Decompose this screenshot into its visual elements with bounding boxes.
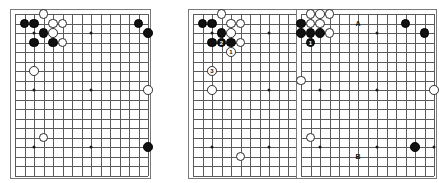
star-point — [376, 89, 379, 92]
stone-black[interactable] — [401, 19, 411, 29]
stone-black[interactable] — [198, 19, 208, 29]
grid-line-vertical — [377, 14, 378, 176]
grid-line-vertical — [250, 14, 251, 176]
stone-white[interactable] — [429, 85, 439, 95]
star-point — [33, 89, 36, 92]
star-point — [433, 146, 436, 149]
stone-white[interactable] — [29, 66, 39, 76]
star-point — [319, 89, 322, 92]
star-point — [268, 146, 271, 149]
grid-line-vertical — [72, 14, 73, 176]
grid-line-vertical — [301, 14, 302, 176]
grid-line-vertical — [279, 14, 280, 176]
grid-line-vertical — [396, 14, 397, 176]
stone-black[interactable] — [207, 19, 217, 29]
stone-white[interactable] — [39, 133, 49, 143]
grid-line-vertical — [339, 14, 340, 176]
stone-white[interactable] — [48, 19, 58, 29]
grid-line-vertical — [91, 14, 92, 176]
star-point — [90, 32, 93, 35]
stone-black[interactable] — [306, 28, 316, 38]
grid-line-vertical — [358, 14, 359, 176]
grid-line-vertical — [110, 14, 111, 176]
stone-black[interactable] — [315, 28, 325, 38]
star-point — [211, 146, 214, 149]
grid-line-vertical — [120, 14, 121, 176]
star-point — [319, 146, 322, 149]
stone-white[interactable] — [306, 133, 316, 143]
go-board-1[interactable] — [10, 9, 151, 179]
go-board-3[interactable]: AB1 — [296, 9, 437, 179]
stone-black[interactable] — [29, 19, 39, 29]
grid-line-vertical — [269, 14, 270, 176]
stone-white[interactable] — [226, 19, 236, 29]
stone-white[interactable] — [325, 28, 335, 38]
grid-line-vertical — [425, 14, 426, 176]
stone-white[interactable] — [306, 9, 316, 19]
star-point — [90, 146, 93, 149]
grid-line-horizontal — [301, 176, 434, 177]
stone-black[interactable] — [296, 28, 306, 38]
stone-white[interactable] — [315, 19, 325, 29]
stone-white[interactable] — [143, 85, 153, 95]
grid-line-vertical — [349, 14, 350, 176]
stone-black[interactable] — [134, 19, 144, 29]
point-label-a: A — [352, 20, 364, 27]
stone-white[interactable] — [226, 28, 236, 38]
star-point — [33, 146, 36, 149]
stone-white[interactable] — [306, 19, 316, 29]
star-point — [376, 146, 379, 149]
star-point — [33, 32, 36, 35]
grid-line-vertical — [129, 14, 130, 176]
stone-white[interactable] — [207, 85, 217, 95]
stone-white[interactable] — [236, 152, 246, 162]
stone-black[interactable] — [217, 28, 227, 38]
stone-black[interactable] — [420, 28, 430, 38]
stone-black[interactable] — [143, 28, 153, 38]
stone-black[interactable] — [226, 38, 236, 48]
stone-black[interactable] — [143, 142, 153, 152]
stone-white[interactable] — [236, 19, 246, 29]
stone-white[interactable] — [217, 9, 227, 19]
star-point — [268, 32, 271, 35]
grid-line-vertical — [368, 14, 369, 176]
stone-white[interactable] — [39, 9, 49, 19]
grid-line-vertical — [406, 14, 407, 176]
grid-line-vertical — [101, 14, 102, 176]
stone-black[interactable] — [410, 142, 420, 152]
stone-white[interactable] — [315, 9, 325, 19]
stone-black[interactable] — [48, 38, 58, 48]
grid-line-vertical — [330, 14, 331, 176]
point-label-b: B — [352, 153, 364, 160]
move-number-1: 1 — [225, 49, 237, 55]
grid-line-vertical — [44, 14, 45, 176]
star-point — [376, 32, 379, 35]
grid-line-vertical — [387, 14, 388, 176]
star-point — [211, 32, 214, 35]
grid-line-vertical — [193, 14, 194, 176]
move-number-1: 1 — [305, 40, 317, 46]
stone-black[interactable] — [20, 19, 30, 29]
grid-line-vertical — [139, 14, 140, 176]
move-number-3: 3 — [206, 68, 218, 74]
star-point — [268, 89, 271, 92]
stone-white[interactable] — [236, 38, 246, 48]
grid-line-horizontal — [15, 176, 148, 177]
stone-black[interactable] — [39, 28, 49, 38]
stone-black[interactable] — [296, 19, 306, 29]
grid-line-vertical — [288, 14, 289, 176]
grid-line-vertical — [260, 14, 261, 176]
stone-white[interactable] — [325, 9, 335, 19]
stone-black[interactable] — [29, 38, 39, 48]
grid-line-vertical — [82, 14, 83, 176]
stone-white[interactable] — [48, 28, 58, 38]
grid-line-vertical — [25, 14, 26, 176]
stone-white[interactable] — [296, 76, 306, 86]
grid-line-vertical — [203, 14, 204, 176]
stone-white[interactable] — [58, 19, 68, 29]
stone-white[interactable] — [58, 38, 68, 48]
grid-line-vertical — [320, 14, 321, 176]
star-point — [90, 89, 93, 92]
grid-line-vertical — [15, 14, 16, 176]
